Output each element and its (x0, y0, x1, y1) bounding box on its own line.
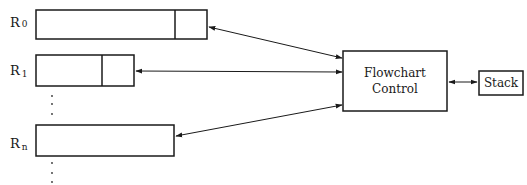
register-r1-box (36, 55, 134, 86)
ellipsis-lower (51, 162, 53, 183)
ellipsis-upper (51, 95, 53, 115)
register-flowchart-diagram: R0 R1 Rn Flowchart Control Stack (0, 0, 527, 185)
stack-label: Stack (484, 76, 519, 90)
register-rn-label: Rn (10, 136, 28, 152)
register-r1-label: R1 (10, 63, 28, 79)
flowchart-control-line1: Flowchart (364, 66, 426, 80)
register-rn-box (36, 125, 174, 156)
register-r1: R1 (10, 55, 134, 86)
flowchart-control-line2: Control (372, 82, 418, 96)
arrow-r0-control (209, 27, 342, 58)
arrow-r1-control (136, 71, 342, 72)
flowchart-control-box: Flowchart Control (343, 51, 447, 111)
arrow-rn-control (176, 105, 342, 136)
register-r0-label: R0 (10, 15, 28, 30)
register-r0: R0 (10, 10, 207, 39)
register-r0-box (36, 10, 207, 39)
register-rn: Rn (10, 125, 174, 156)
stack-box: Stack (479, 71, 523, 95)
